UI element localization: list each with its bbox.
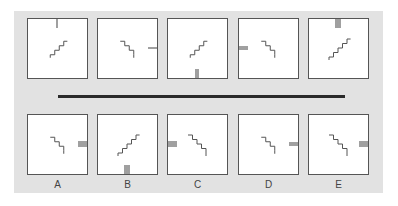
option-label-e: E — [308, 179, 369, 190]
figure-drawing — [167, 18, 228, 79]
separator-line — [58, 95, 345, 98]
answer-option-a[interactable] — [27, 114, 88, 175]
figure-drawing — [97, 18, 158, 79]
bar-marker-icon — [359, 142, 368, 146]
figure-drawing — [97, 114, 158, 175]
bar-marker-icon — [336, 19, 340, 28]
staircase-icon — [50, 137, 64, 154]
staircase-icon — [120, 41, 134, 58]
figure-drawing — [308, 114, 369, 175]
figure-drawing — [27, 18, 88, 79]
figure-drawing — [308, 18, 369, 79]
bar-marker-icon — [289, 143, 298, 145]
bar-marker-icon — [196, 69, 198, 78]
question-figure-5 — [308, 18, 369, 79]
bar-marker-icon — [239, 47, 248, 49]
question-figure-3 — [167, 18, 228, 79]
bar-marker-icon — [125, 165, 129, 174]
answer-option-c[interactable] — [167, 114, 228, 175]
staircase-icon — [329, 39, 351, 60]
bar-marker-icon — [78, 142, 87, 146]
question-figure-1 — [27, 18, 88, 79]
figure-drawing — [238, 114, 299, 175]
question-figure-2 — [97, 18, 158, 79]
staircase-icon — [261, 137, 275, 154]
question-figure-4 — [238, 18, 299, 79]
figure-drawing — [27, 114, 88, 175]
staircase-icon — [50, 41, 67, 58]
staircase-icon — [261, 41, 275, 58]
option-label-a: A — [27, 179, 88, 190]
figure-drawing — [167, 114, 228, 175]
bar-marker-icon — [168, 142, 177, 146]
staircase-icon — [188, 135, 206, 156]
answer-option-d[interactable] — [238, 114, 299, 175]
figure-drawing — [238, 18, 299, 79]
answer-option-b[interactable] — [97, 114, 158, 175]
option-label-d: D — [238, 179, 299, 190]
answer-option-e[interactable] — [308, 114, 369, 175]
option-label-c: C — [167, 179, 228, 190]
staircase-icon — [118, 135, 140, 156]
option-label-b: B — [97, 179, 158, 190]
staircase-icon — [190, 41, 207, 58]
staircase-icon — [329, 135, 347, 156]
